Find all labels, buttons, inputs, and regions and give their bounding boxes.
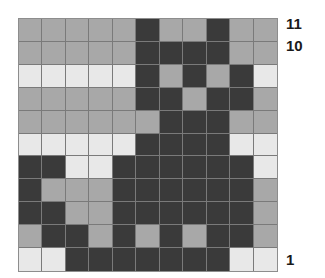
grid-cell-r11-c4	[89, 19, 112, 42]
grid-cell-r6-c8	[183, 134, 206, 157]
grid-cell-r3-c10	[230, 202, 253, 225]
pixel-grid-chart	[18, 18, 278, 272]
grid-cell-r10-c2	[42, 42, 65, 65]
grid-cell-r4-c11	[254, 179, 277, 202]
grid-cell-r9-c6	[136, 65, 159, 88]
grid-cell-r2-c8	[183, 225, 206, 248]
grid-cell-r8-c4	[89, 88, 112, 111]
grid-cell-r1-c11	[254, 248, 277, 271]
grid-cell-r1-c4	[89, 248, 112, 271]
grid-cell-r10-c6	[136, 42, 159, 65]
grid-cell-r9-c8	[183, 65, 206, 88]
grid-cell-r2-c6	[136, 225, 159, 248]
grid-cell-r5-c4	[89, 156, 112, 179]
grid-cell-r10-c8	[183, 42, 206, 65]
grid-cell-r9-c10	[230, 65, 253, 88]
grid-cell-r4-c6	[136, 179, 159, 202]
grid-cell-r6-c7	[160, 134, 183, 157]
grid-cell-r2-c1	[19, 225, 42, 248]
grid-cell-r10-c1	[19, 42, 42, 65]
grid-cell-r6-c2	[42, 134, 65, 157]
grid-cell-r6-c9	[207, 134, 230, 157]
grid-cell-r10-c11	[254, 42, 277, 65]
grid-cell-r11-c8	[183, 19, 206, 42]
row-label-11: 11	[286, 16, 302, 31]
grid-cell-r9-c3	[66, 65, 89, 88]
grid-cell-r2-c7	[160, 225, 183, 248]
grid-cell-r3-c4	[89, 202, 112, 225]
chart-page: 11 10 1	[0, 0, 325, 278]
grid-cell-r7-c2	[42, 111, 65, 134]
grid-cell-r4-c5	[113, 179, 136, 202]
grid-cell-r5-c2	[42, 156, 65, 179]
grid-cell-r11-c9	[207, 19, 230, 42]
grid-cell-r8-c7	[160, 88, 183, 111]
grid-cell-r7-c7	[160, 111, 183, 134]
grid-cell-r9-c11	[254, 65, 277, 88]
grid-cell-r4-c1	[19, 179, 42, 202]
grid-cell-r5-c1	[19, 156, 42, 179]
grid-cell-r6-c5	[113, 134, 136, 157]
grid-cell-r3-c1	[19, 202, 42, 225]
grid-cell-r3-c11	[254, 202, 277, 225]
grid-cell-r11-c1	[19, 19, 42, 42]
grid-cell-r6-c4	[89, 134, 112, 157]
grid-cell-r11-c6	[136, 19, 159, 42]
grid-cell-r5-c11	[254, 156, 277, 179]
grid-cell-r3-c2	[42, 202, 65, 225]
grid-cell-r3-c8	[183, 202, 206, 225]
grid-cell-r10-c3	[66, 42, 89, 65]
grid-cell-r1-c5	[113, 248, 136, 271]
grid-cell-r3-c5	[113, 202, 136, 225]
grid-cell-r6-c1	[19, 134, 42, 157]
grid-cell-r6-c3	[66, 134, 89, 157]
grid-cell-r9-c4	[89, 65, 112, 88]
grid-cell-r2-c9	[207, 225, 230, 248]
grid-cell-r6-c10	[230, 134, 253, 157]
grid-cell-r4-c2	[42, 179, 65, 202]
grid-cell-r8-c9	[207, 88, 230, 111]
grid-cell-r5-c3	[66, 156, 89, 179]
grid-cell-r6-c6	[136, 134, 159, 157]
grid-cell-r10-c7	[160, 42, 183, 65]
grid-cell-r10-c9	[207, 42, 230, 65]
grid-cell-r11-c11	[254, 19, 277, 42]
grid-cell-r3-c3	[66, 202, 89, 225]
grid-cell-r7-c5	[113, 111, 136, 134]
grid-cell-r3-c9	[207, 202, 230, 225]
grid-cell-r2-c5	[113, 225, 136, 248]
grid-cell-r8-c11	[254, 88, 277, 111]
grid-cell-r8-c3	[66, 88, 89, 111]
grid-cell-r9-c7	[160, 65, 183, 88]
grid-cell-r1-c2	[42, 248, 65, 271]
grid-cell-r8-c2	[42, 88, 65, 111]
grid-cell-r5-c5	[113, 156, 136, 179]
grid-cell-r7-c6	[136, 111, 159, 134]
grid-cell-r9-c9	[207, 65, 230, 88]
grid-cell-r11-c10	[230, 19, 253, 42]
grid-cell-r5-c8	[183, 156, 206, 179]
grid-cell-r5-c9	[207, 156, 230, 179]
grid-cell-r2-c11	[254, 225, 277, 248]
grid-cell-r4-c8	[183, 179, 206, 202]
grid-cell-r4-c10	[230, 179, 253, 202]
grid-cell-r10-c5	[113, 42, 136, 65]
grid-cell-r10-c10	[230, 42, 253, 65]
grid-cell-r4-c9	[207, 179, 230, 202]
grid-cell-r5-c7	[160, 156, 183, 179]
grid-cell-r2-c3	[66, 225, 89, 248]
grid-cell-r7-c8	[183, 111, 206, 134]
grid-cell-r7-c1	[19, 111, 42, 134]
grid-cell-r6-c11	[254, 134, 277, 157]
grid-cell-r1-c3	[66, 248, 89, 271]
grid-cell-r8-c6	[136, 88, 159, 111]
grid-cell-r11-c2	[42, 19, 65, 42]
grid-cell-r11-c7	[160, 19, 183, 42]
grid-cell-r7-c3	[66, 111, 89, 134]
grid-cell-r9-c5	[113, 65, 136, 88]
row-label-10: 10	[286, 38, 303, 53]
grid-cell-r8-c10	[230, 88, 253, 111]
grid-cell-r8-c1	[19, 88, 42, 111]
grid-cell-r7-c11	[254, 111, 277, 134]
grid-cell-r4-c7	[160, 179, 183, 202]
